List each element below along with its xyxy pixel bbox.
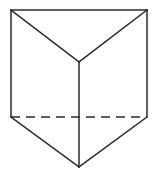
bottom-face-right-diagonal [79,117,147,167]
triangular-prism-drawing: Wireframe triangular prism drawn in obli… [0,0,158,174]
bottom-face-left-diagonal [11,117,79,167]
figure-canvas: Wireframe triangular prism drawn in obli… [0,0,158,174]
